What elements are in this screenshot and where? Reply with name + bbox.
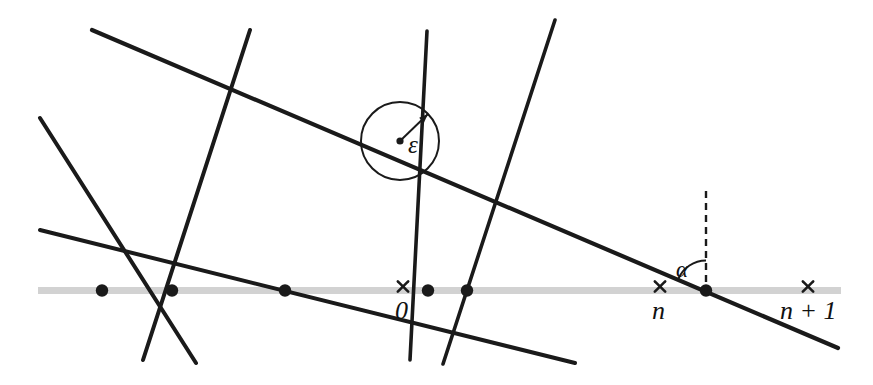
epsilon-circle-group bbox=[361, 102, 439, 180]
line-steep-mid-falling bbox=[410, 31, 427, 360]
intersection-dot bbox=[166, 284, 178, 296]
epsilon-label: ε bbox=[408, 132, 418, 157]
intersection-dot bbox=[422, 284, 434, 296]
alpha-label: α bbox=[676, 258, 688, 281]
intersection-dot bbox=[279, 284, 291, 296]
line-steep-left-rising bbox=[40, 118, 196, 363]
intersection-dot bbox=[96, 284, 108, 296]
line-steep-left-falling bbox=[143, 30, 250, 360]
figure-canvas bbox=[0, 0, 873, 385]
geometric-figure: ε α 0 n n + 1 bbox=[0, 0, 873, 385]
line-shallow-descending bbox=[40, 230, 575, 363]
intersection-dot bbox=[461, 284, 473, 296]
axis-label-n-plus-1: n + 1 bbox=[780, 298, 837, 324]
line-steep-mid-rising bbox=[443, 20, 555, 364]
lattice-lines-group bbox=[40, 20, 838, 364]
axis-label-zero: 0 bbox=[395, 298, 408, 324]
axis-label-n: n bbox=[652, 298, 665, 324]
